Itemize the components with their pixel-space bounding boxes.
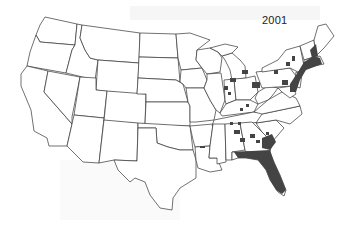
state-washington [36, 17, 77, 45]
state-wyoming [96, 60, 139, 95]
state-michigan [222, 53, 246, 80]
state-north-dakota [139, 33, 178, 58]
us-map: 2001 [0, 0, 354, 227]
state-new-york [262, 46, 304, 72]
state-new-mexico [99, 120, 138, 163]
state-colorado [104, 91, 146, 124]
state-arkansas [190, 124, 213, 147]
year-label: 2001 [262, 14, 287, 26]
state-iowa [180, 68, 207, 88]
state-arizona [67, 115, 104, 163]
state-kansas [145, 102, 190, 126]
map-canvas [0, 0, 354, 227]
